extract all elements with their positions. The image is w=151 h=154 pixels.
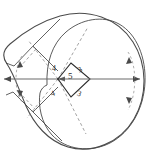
outer-boundary-curve <box>39 19 145 149</box>
construction-cap-lower <box>6 92 13 95</box>
figure-canvas: 4 3 5 4 3 <box>0 0 151 154</box>
label-diagonal-center: 5 <box>68 72 73 81</box>
label-edge-upper-left: 4 <box>52 65 56 73</box>
outer-shape-outline <box>4 13 144 149</box>
dashed-construction-lines <box>19 27 88 134</box>
hub-vertex-point <box>57 78 59 80</box>
construction-edge-lower-long <box>33 112 62 141</box>
diagram-svg <box>0 0 151 154</box>
